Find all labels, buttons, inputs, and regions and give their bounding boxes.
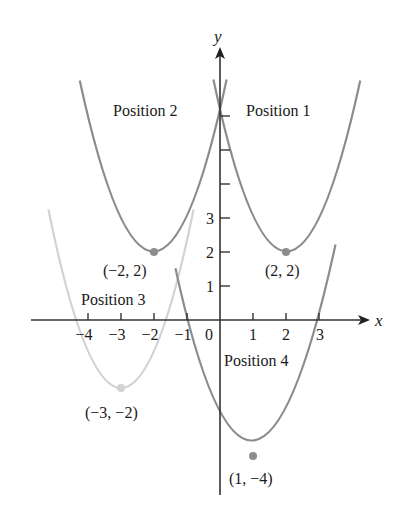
x-ticks bbox=[88, 313, 319, 320]
y-tick-3: 3 bbox=[206, 210, 214, 227]
vertex-label-position-3: (−3, −2) bbox=[85, 404, 138, 422]
x-tick-m1: −1 bbox=[174, 326, 191, 343]
vertex-dot-position-3 bbox=[117, 384, 125, 392]
x-axis-label: x bbox=[374, 311, 383, 330]
x-tick-0: 0 bbox=[205, 326, 213, 343]
position-4-label: Position 4 bbox=[224, 352, 288, 369]
x-tick-3: 3 bbox=[316, 326, 324, 343]
y-tick-2: 2 bbox=[206, 244, 214, 261]
y-axis-label: y bbox=[212, 27, 222, 46]
x-tick-m2: −2 bbox=[141, 326, 158, 343]
position-2-label: Position 2 bbox=[113, 102, 177, 119]
vertex-label-position-1: (2, 2) bbox=[265, 262, 300, 280]
parabola-translations-diagram: x y −4 −3 −2 −1 0 1 2 3 1 2 3 bbox=[0, 0, 410, 524]
position-3-label: Position 3 bbox=[81, 291, 145, 308]
x-tick-1: 1 bbox=[249, 326, 257, 343]
vertex-dot-position-4 bbox=[249, 452, 257, 460]
vertex-dot-position-1 bbox=[282, 248, 290, 256]
position-1-label: Position 1 bbox=[246, 102, 310, 119]
x-tick-m4: −4 bbox=[75, 326, 92, 343]
vertex-label-position-2: (−2, 2) bbox=[103, 262, 147, 280]
x-tick-m3: −3 bbox=[108, 326, 125, 343]
x-tick-labels: −4 −3 −2 −1 0 1 2 3 bbox=[75, 326, 324, 343]
vertex-label-position-4: (1, −4) bbox=[229, 470, 273, 488]
y-tick-1: 1 bbox=[206, 278, 214, 295]
y-tick-labels: 1 2 3 bbox=[206, 210, 214, 295]
x-tick-2: 2 bbox=[282, 326, 290, 343]
vertex-dot-position-2 bbox=[150, 248, 158, 256]
